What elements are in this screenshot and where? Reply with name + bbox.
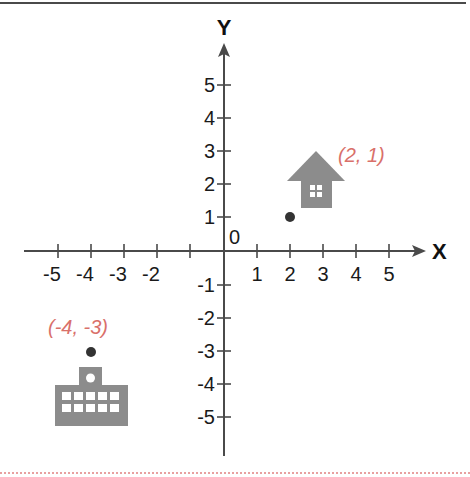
school-building-icon	[55, 367, 128, 426]
y-tick-label: 2	[204, 173, 215, 195]
y-tick-label: 1	[204, 206, 215, 228]
point-marker	[86, 347, 96, 357]
y-tick-label: 5	[204, 74, 215, 96]
y-tick-label: -4	[197, 373, 215, 395]
y-tick-label: -2	[197, 307, 215, 329]
x-tick-label: 5	[383, 263, 394, 285]
x-tick-label: 4	[350, 263, 361, 285]
x-tick-label: -3	[109, 263, 127, 285]
x-tick-label: 2	[284, 263, 295, 285]
x-tick-label: -4	[76, 263, 94, 285]
x-axis-label: X	[432, 239, 447, 264]
x-tick-label: -5	[43, 263, 61, 285]
coordinate-plane: Y X 0 -5 -4 -3 -2 1 2 3 4 5 5 4 3 2 1 -1…	[0, 0, 470, 477]
x-tick-labels: -5 -4 -3 -2 1 2 3 4 5	[43, 263, 394, 285]
y-tick-label: 4	[204, 107, 215, 129]
y-tick-label: -1	[197, 274, 215, 296]
coordinate-label: (2, 1)	[338, 144, 385, 166]
y-tick-label: -5	[197, 406, 215, 428]
point-marker	[285, 212, 295, 222]
origin-label: 0	[229, 226, 240, 248]
x-tick-label: 1	[251, 263, 262, 285]
point-house: (2, 1)	[285, 144, 385, 222]
y-tick-label: -3	[197, 340, 215, 362]
x-tick-label: 3	[317, 263, 328, 285]
bottom-dotted-rule	[0, 472, 470, 474]
coordinate-label: (-4, -3)	[48, 316, 108, 338]
y-tick-label: 3	[204, 140, 215, 162]
house-icon	[287, 151, 345, 208]
point-school: (-4, -3)	[48, 316, 128, 426]
y-axis-label: Y	[217, 15, 232, 40]
x-tick-label: -2	[142, 263, 160, 285]
